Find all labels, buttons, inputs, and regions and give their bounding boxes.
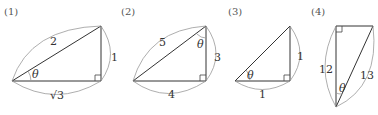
theta-2: θ bbox=[197, 38, 204, 51]
triangle-3 bbox=[235, 26, 290, 81]
hypotenuse-label-4: 13 bbox=[360, 69, 374, 82]
figure-2: (2) 5 3 4 θ bbox=[121, 6, 221, 101]
hypotenuse-label-1: 2 bbox=[50, 35, 57, 48]
figure-2-label: (2) bbox=[121, 6, 135, 17]
right-angle-mark-2 bbox=[200, 75, 206, 81]
horizontal-label-1: √3 bbox=[50, 89, 64, 102]
theta-1: θ bbox=[32, 68, 39, 81]
vertical-arc-1 bbox=[101, 26, 111, 81]
right-angle-mark-4 bbox=[336, 26, 342, 32]
figure-3: (3) 1 1 θ bbox=[228, 6, 304, 101]
horizontal-label-3: 1 bbox=[259, 88, 266, 101]
hypotenuse-label-2: 5 bbox=[159, 36, 166, 49]
triangles-diagram: (1) 2 1 √3 θ (2) 5 3 4 θ (3) 1 1 θ bbox=[0, 0, 378, 115]
figure-4-label: (4) bbox=[311, 6, 325, 17]
right-angle-mark-1 bbox=[95, 75, 101, 81]
figure-4: (4) 12 13 θ bbox=[311, 6, 374, 107]
triangle-2 bbox=[133, 26, 206, 81]
right-angle-mark-3 bbox=[284, 75, 290, 81]
vertical-label-3: 1 bbox=[297, 50, 304, 63]
figure-1-label: (1) bbox=[4, 6, 18, 17]
vertical-label-1: 1 bbox=[111, 51, 118, 64]
angle-arc-1 bbox=[28, 71, 31, 81]
theta-3: θ bbox=[247, 69, 254, 82]
horizontal-label-2: 4 bbox=[168, 88, 175, 101]
vertical-label-2: 3 bbox=[214, 51, 221, 64]
theta-4: θ bbox=[339, 82, 346, 95]
vertical-label-4: 12 bbox=[319, 63, 333, 76]
figure-1: (1) 2 1 √3 θ bbox=[4, 6, 118, 102]
figure-3-label: (3) bbox=[228, 6, 242, 17]
